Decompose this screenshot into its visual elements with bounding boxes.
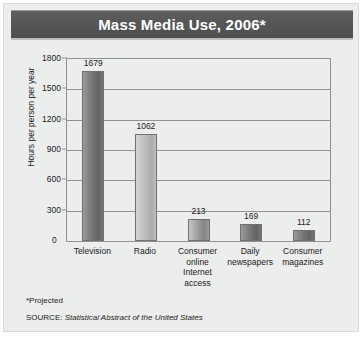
gridline — [67, 150, 330, 151]
bar-value-label: 112 — [297, 218, 311, 227]
y-axis-zero-label: 0 — [52, 236, 57, 245]
bar-value-label: 213 — [191, 207, 205, 216]
y-axis-tick-label: 900 — [30, 145, 61, 154]
source-prefix: SOURCE: — [26, 313, 62, 322]
y-axis-tick-labels: 300600900120015001800 — [30, 58, 61, 240]
y-axis-tick-mark — [62, 58, 67, 59]
y-axis-tick-label: 1500 — [30, 84, 61, 93]
bar-value-label: 1679 — [84, 59, 103, 68]
chart-card: Mass Media Use, 2006* Hours per person p… — [3, 3, 359, 332]
chart-footnote: *Projected — [26, 296, 63, 305]
x-axis-category-label: Consumermagazines — [272, 246, 334, 267]
x-axis-category-labels: TelevisionRadioConsumeronlineInternetacc… — [66, 246, 329, 294]
gridline — [67, 89, 330, 90]
chart-source: SOURCE: Statistical Abstract of the Unit… — [26, 313, 203, 322]
bar — [240, 224, 262, 241]
bar-value-label: 1062 — [136, 122, 155, 131]
page-title: Mass Media Use, 2006* — [98, 16, 266, 33]
y-axis-tick-mark — [62, 118, 67, 119]
y-axis-tick-label: 300 — [30, 205, 61, 214]
gridline — [67, 120, 330, 121]
y-axis-tick-mark — [62, 88, 67, 89]
y-axis-tick-label: 1800 — [30, 54, 61, 63]
bar-value-label: 169 — [244, 212, 258, 221]
plot-area: 16791062213169112 — [66, 58, 331, 242]
y-axis-tick-label: 600 — [30, 175, 61, 184]
bar — [135, 134, 157, 241]
bar — [293, 230, 315, 241]
y-axis-tick-label: 1200 — [30, 114, 61, 123]
source-title: Statistical Abstract of the United State… — [65, 313, 203, 322]
bar — [188, 219, 210, 241]
chart-title-bar: Mass Media Use, 2006* — [11, 10, 353, 40]
gridline — [67, 180, 330, 181]
y-axis-tick-mark — [62, 179, 67, 180]
bar — [82, 71, 104, 241]
chart-area: Hours per person per year 30060090012001… — [4, 44, 360, 333]
y-axis-tick-mark — [62, 149, 67, 150]
y-axis-tick-mark — [62, 209, 67, 210]
